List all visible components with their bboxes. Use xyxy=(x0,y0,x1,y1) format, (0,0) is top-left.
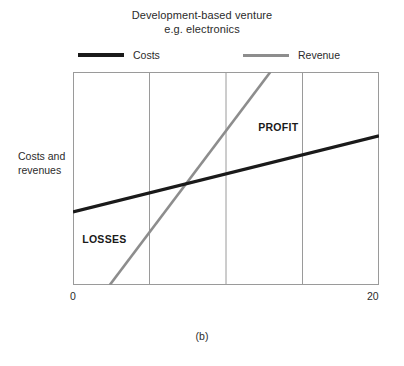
legend-line-icon-costs xyxy=(78,53,124,57)
annotation-losses: LOSSES xyxy=(82,233,126,245)
legend-item-revenue: Revenue xyxy=(243,45,340,65)
x-gridlines xyxy=(150,72,303,285)
x-tick-label-0: 0 xyxy=(70,290,76,302)
chart-title-line-1: Development-based venture xyxy=(0,9,404,23)
plot-area: PROFIT LOSSES xyxy=(73,72,379,285)
series-line-revenue xyxy=(110,72,271,285)
chart-legend: Costs Revenue xyxy=(0,45,404,65)
y-axis-label-line-1: Costs and xyxy=(18,150,76,164)
x-tick-label-20: 20 xyxy=(367,290,379,302)
y-axis-label: Costs and revenues xyxy=(18,150,76,177)
chart-title-line-2: e.g. electronics xyxy=(0,23,404,37)
figure-container: Development-based venture e.g. electroni… xyxy=(0,0,404,366)
legend-line-icon-revenue xyxy=(243,54,289,57)
chart-title: Development-based venture e.g. electroni… xyxy=(0,9,404,36)
plot-svg xyxy=(73,72,379,285)
figure-caption: (b) xyxy=(0,330,404,342)
annotation-profit: PROFIT xyxy=(258,121,298,133)
legend-label-revenue: Revenue xyxy=(298,49,340,61)
y-axis-label-line-2: revenues xyxy=(18,164,76,178)
legend-item-costs: Costs xyxy=(78,45,160,65)
legend-label-costs: Costs xyxy=(133,49,160,61)
